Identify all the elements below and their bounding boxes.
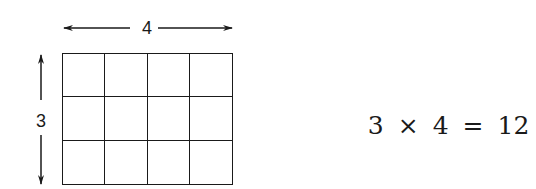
grid-cell [148, 54, 190, 97]
width-label: 4 [138, 19, 156, 37]
grid-cell [63, 97, 105, 140]
multiply-operator: × [398, 111, 419, 140]
grid-cell [190, 54, 232, 97]
grid-cell [190, 141, 232, 184]
height-label: 3 [33, 110, 49, 132]
multiplication-area-diagram: 4 3 3×4=12 [0, 0, 536, 189]
left-operand: 3 [368, 111, 384, 140]
grid-cell [63, 141, 105, 184]
grid-cell [148, 97, 190, 140]
equals-sign: = [463, 111, 484, 140]
grid-cell [63, 54, 105, 97]
multiplication-equation: 3×4=12 [336, 82, 529, 169]
unit-grid [62, 53, 233, 185]
grid-cell [105, 54, 147, 97]
grid-cell [105, 97, 147, 140]
grid-cell [148, 141, 190, 184]
grid-cell [105, 141, 147, 184]
result: 12 [498, 111, 530, 140]
right-operand: 4 [433, 111, 449, 140]
grid-cell [190, 97, 232, 140]
